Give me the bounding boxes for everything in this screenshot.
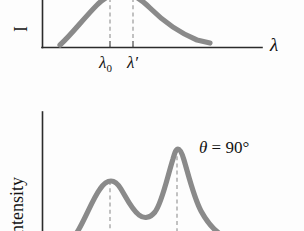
theta-value: = 90° <box>207 138 249 157</box>
bottom-intensity-curve <box>76 149 220 231</box>
theta-annotation: θ = 90° <box>199 139 249 156</box>
bottom-panel-plot <box>0 0 304 231</box>
figure-page: I λ λ0 λ′ Intensity <box>0 0 304 231</box>
